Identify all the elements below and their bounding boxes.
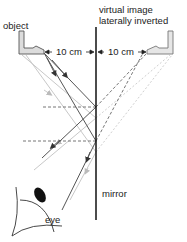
object-label: object (3, 21, 28, 31)
eye-label: eye (45, 215, 60, 225)
mirror-label: mirror (102, 189, 127, 199)
eye-drawing (12, 186, 62, 236)
light-rays (22, 55, 96, 200)
virtual-image-label-line2: laterally inverted (99, 16, 168, 26)
image-shape (147, 31, 173, 54)
object-shape (19, 31, 44, 54)
mirror-reflection-diagram (0, 0, 187, 242)
virtual-image-label-line1: virtual image (99, 5, 153, 15)
dark-rays (42, 53, 96, 210)
distance-left-label: 10 cm (56, 47, 82, 57)
distance-right-label: 10 cm (108, 47, 134, 57)
